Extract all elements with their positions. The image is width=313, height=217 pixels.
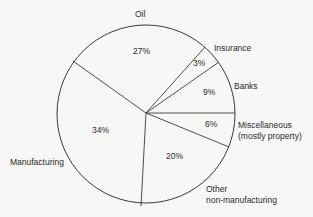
pct-banks: 9% [203, 87, 215, 97]
label-misc-line1: Miscellaneous [238, 120, 292, 130]
pct-other: 20% [166, 151, 183, 161]
divider-oil-insurance [146, 47, 205, 113]
label-banks: Banks [234, 81, 258, 91]
pct-insurance: 3% [193, 58, 205, 68]
pct-oil: 27% [133, 46, 150, 56]
label-other-line1: Other [206, 184, 227, 194]
divider-oil-manufacturing [73, 61, 146, 113]
label-oil: Oil [135, 9, 145, 19]
divider-other-manufacturing [141, 113, 146, 206]
label-misc-line2: (mostly property) [238, 131, 302, 141]
label-other-line2: non-manufacturing [206, 195, 277, 205]
pie-chart [0, 0, 313, 217]
label-insurance: Insurance [214, 43, 251, 53]
label-manufacturing: Manufacturing [10, 157, 64, 167]
pct-manufacturing: 34% [92, 125, 109, 135]
pct-misc: 6% [205, 119, 217, 129]
